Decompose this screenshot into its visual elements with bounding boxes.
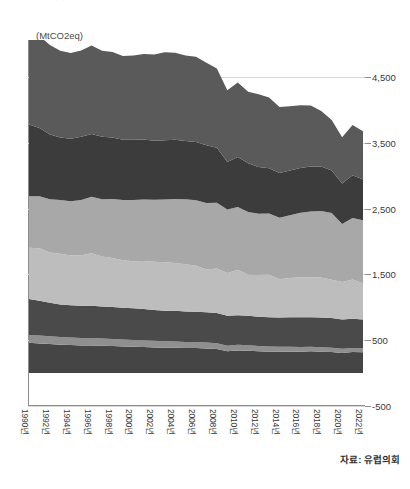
legend-label: 건물 xyxy=(196,0,208,1)
x-axis-tick-group: 1990년1992년1994년1996년1998년2000년2002년2004년… xyxy=(28,409,365,467)
legend-label: 폐기물 xyxy=(282,0,300,1)
chart-plot-area xyxy=(28,40,365,406)
y-axis-tickmark xyxy=(365,143,371,144)
stacked-area-series xyxy=(29,40,365,406)
y-axis-tickmark xyxy=(365,274,371,275)
y-axis-tick-label: 500 xyxy=(372,335,388,346)
legend-label: 산업공정 xyxy=(326,0,350,1)
x-axis-tick-label: 2000년 xyxy=(124,409,136,435)
source-note: 자료: 유럽의회 xyxy=(340,452,400,466)
y-axis-tick-label: 2,500 xyxy=(372,203,396,214)
x-axis-tick-label: 1990년 xyxy=(20,409,32,435)
y-axis-tickmark xyxy=(365,406,371,407)
x-axis-tick-label: 1998년 xyxy=(104,409,116,435)
legend-label: 농업 xyxy=(238,0,250,1)
y-axis-tick-label: -500 xyxy=(372,401,391,412)
x-axis-tick-label: 2020년 xyxy=(333,409,345,435)
x-axis-tick-label: 1992년 xyxy=(41,409,53,435)
x-axis-tick-label: 2006년 xyxy=(187,409,199,435)
x-axis-tick-label: 2008년 xyxy=(208,409,220,435)
y-axis-tick-label: 3,500 xyxy=(372,137,396,148)
x-axis-tick-label: 2014년 xyxy=(271,409,283,435)
y-axis-tickmark xyxy=(365,340,371,341)
x-axis-tick-label: 2004년 xyxy=(166,409,178,435)
x-axis-tick-label: 2022년 xyxy=(354,409,366,435)
legend-label: 에너지 산업 xyxy=(46,0,78,1)
x-axis-tick-label: 2018년 xyxy=(312,409,324,435)
legend-label: 제조업 xyxy=(104,0,122,1)
y-axis-tickmark xyxy=(365,209,371,210)
y-axis-tick-label: 1,500 xyxy=(372,269,396,280)
x-axis-tick-label: 2010년 xyxy=(229,409,241,435)
x-axis-tick-label: 1996년 xyxy=(83,409,95,435)
x-axis-tick-label: 1994년 xyxy=(62,409,74,435)
legend-label: 운송 xyxy=(154,0,166,1)
x-axis-tick-label: 2012년 xyxy=(250,409,262,435)
x-axis-tick-label: 2016년 xyxy=(291,409,303,435)
x-axis-tick-label: 2002년 xyxy=(145,409,157,435)
y-axis-tick-label: 4,500 xyxy=(372,71,396,82)
gridline xyxy=(28,406,365,407)
legend-clipped: 에너지 산업 제조업 운송 건물 농업 폐기물 산업공정 xyxy=(30,0,370,5)
y-axis-tickmark xyxy=(365,77,371,78)
